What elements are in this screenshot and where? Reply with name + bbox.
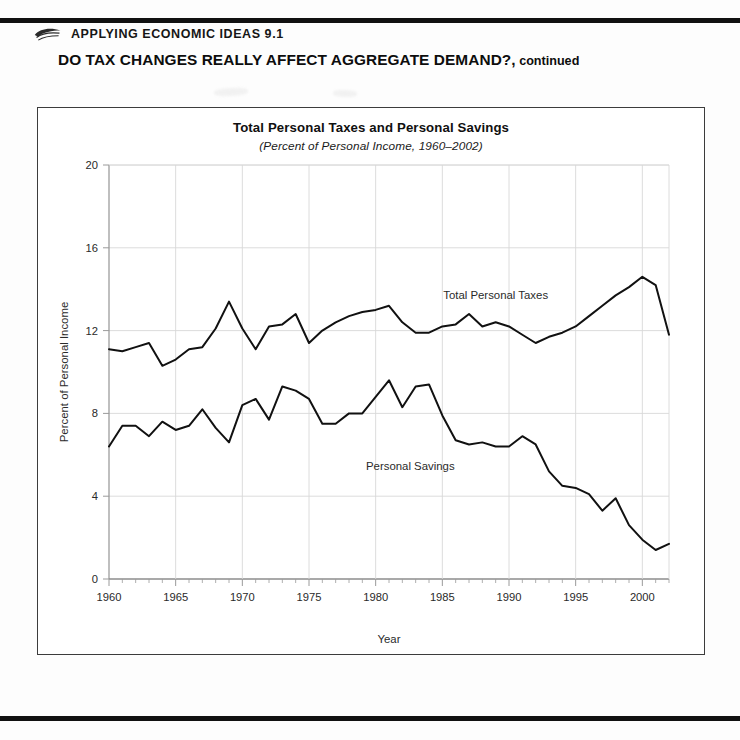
ytick-label: 16 xyxy=(86,242,98,254)
series-label-total-personal-taxes: Total Personal Taxes xyxy=(443,289,548,301)
xtick-label: 1970 xyxy=(230,591,255,603)
feature-headline: DO TAX CHANGES REALLY AFFECT AGGREGATE D… xyxy=(58,51,703,69)
eyebrow-row: Applying Economic Ideas 9.1 xyxy=(33,26,703,42)
ytick-label: 0 xyxy=(92,573,98,585)
feature-header: Applying Economic Ideas 9.1 DO TAX CHANG… xyxy=(33,26,703,69)
xtick-label: 1965 xyxy=(163,591,188,603)
bottom-rule xyxy=(0,716,740,721)
series-line-total-personal-taxes xyxy=(109,277,669,366)
ytick-label: 8 xyxy=(92,407,98,419)
ytick-label: 4 xyxy=(92,490,98,502)
top-rule xyxy=(0,18,740,23)
xtick-label: 1975 xyxy=(297,591,322,603)
headline-main: DO TAX CHANGES REALLY AFFECT AGGREGATE D… xyxy=(58,51,516,68)
eyebrow-label: Applying Economic Ideas 9.1 xyxy=(71,27,284,41)
shell-swoosh-icon xyxy=(33,26,63,42)
plot-area: 0481216201960196519701975198019851990199… xyxy=(38,108,706,656)
xtick-label: 1995 xyxy=(563,591,588,603)
xtick-label: 2000 xyxy=(630,591,655,603)
ytick-label: 12 xyxy=(86,325,98,337)
xtick-label: 1990 xyxy=(497,591,522,603)
xtick-label: 1960 xyxy=(97,591,122,603)
headline-continued: continued xyxy=(516,54,580,68)
series-label-personal-savings: Personal Savings xyxy=(366,460,455,472)
ytick-label: 20 xyxy=(86,159,98,171)
y-axis-title: Percent of Personal Income xyxy=(58,302,70,443)
xtick-label: 1985 xyxy=(430,591,455,603)
xtick-label: 1980 xyxy=(363,591,388,603)
figure-frame: Total Personal Taxes and Personal Saving… xyxy=(37,107,705,655)
line-chart: 0481216201960196519701975198019851990199… xyxy=(38,108,706,656)
scan-artifact xyxy=(333,90,357,98)
page-canvas: Applying Economic Ideas 9.1 DO TAX CHANG… xyxy=(0,0,740,740)
scan-artifact xyxy=(214,87,248,97)
x-axis-title: Year xyxy=(377,633,400,645)
